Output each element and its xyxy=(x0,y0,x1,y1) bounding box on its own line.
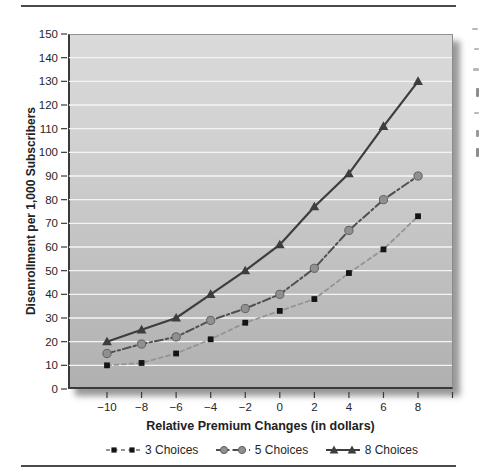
page-edge-fragment xyxy=(473,68,479,71)
svg-text:−6: −6 xyxy=(170,401,183,413)
svg-text:30: 30 xyxy=(45,312,58,324)
page-edge-fragment xyxy=(472,28,478,30)
svg-text:90: 90 xyxy=(45,170,58,182)
svg-text:−10: −10 xyxy=(97,401,117,413)
bottom-horizontal-rule xyxy=(21,465,456,467)
figure-page: 0102030405060708090100110120130140150−10… xyxy=(0,0,479,476)
svg-text:−2: −2 xyxy=(239,401,252,413)
legend-marker-8-choices-icon xyxy=(326,444,360,456)
svg-text:0: 0 xyxy=(277,401,283,413)
svg-text:140: 140 xyxy=(39,52,58,64)
legend-item-8-choices: 8 Choices xyxy=(326,443,418,457)
y-axis-title: Disenrollment per 1,000 Subscribers xyxy=(24,107,38,315)
chart-legend: 3 Choices 5 Choices 8 Choices xyxy=(106,443,418,457)
svg-text:0: 0 xyxy=(52,383,58,395)
svg-text:−4: −4 xyxy=(204,401,218,413)
svg-text:8: 8 xyxy=(415,401,421,413)
svg-text:150: 150 xyxy=(39,28,58,40)
svg-text:130: 130 xyxy=(39,75,58,87)
legend-label-8-choices: 8 Choices xyxy=(365,443,418,457)
svg-text:100: 100 xyxy=(39,146,58,158)
legend-label-3-choices: 3 Choices xyxy=(145,443,198,457)
svg-text:20: 20 xyxy=(45,336,58,348)
page-edge-fragment xyxy=(474,48,479,50)
svg-text:40: 40 xyxy=(45,288,58,300)
legend-item-5-choices: 5 Choices xyxy=(216,443,308,457)
x-axis-title: Relative Premium Changes (in dollars) xyxy=(68,419,453,433)
plot-area xyxy=(68,34,453,389)
top-horizontal-rule xyxy=(21,5,456,7)
legend-marker-5-choices-icon xyxy=(216,444,250,456)
svg-text:60: 60 xyxy=(45,241,58,253)
svg-text:70: 70 xyxy=(45,217,58,229)
svg-text:50: 50 xyxy=(45,265,58,277)
legend-item-3-choices: 3 Choices xyxy=(106,443,198,457)
svg-text:10: 10 xyxy=(45,359,58,371)
svg-text:110: 110 xyxy=(40,123,58,135)
legend-marker-3-choices-icon xyxy=(106,444,140,456)
svg-text:80: 80 xyxy=(45,194,58,206)
page-edge-fragment xyxy=(474,112,479,114)
legend-label-5-choices: 5 Choices xyxy=(255,443,308,457)
svg-text:6: 6 xyxy=(380,401,386,413)
svg-text:2: 2 xyxy=(311,401,317,413)
svg-text:4: 4 xyxy=(346,401,353,413)
svg-text:120: 120 xyxy=(39,99,58,111)
svg-text:−8: −8 xyxy=(135,401,148,413)
